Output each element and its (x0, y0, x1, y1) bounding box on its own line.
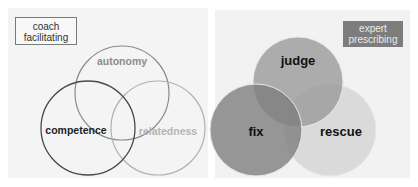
rescue-label: rescue (320, 124, 362, 139)
judge-label: judge (280, 53, 316, 68)
competence-label: competence (45, 124, 106, 136)
autonomy-label: autonomy (97, 55, 147, 67)
coach-tag-line-1: coach (16, 21, 76, 32)
expert-prescribing-tag: expert prescribing (343, 21, 403, 47)
relatedness-label: relatedness (139, 125, 198, 137)
right-venn: judge fix rescue (210, 37, 376, 176)
expert-tag-line-2: prescribing (343, 34, 403, 45)
left-venn: autonomy competence relatedness (41, 46, 205, 175)
coach-tag-line-2: facilitating (16, 32, 76, 43)
expert-tag-line-1: expert (343, 23, 403, 34)
fix-label: fix (248, 124, 264, 139)
coach-facilitating-tag: coach facilitating (15, 17, 77, 45)
diagram-stage: autonomy competence relatedness judge fi… (0, 0, 418, 187)
